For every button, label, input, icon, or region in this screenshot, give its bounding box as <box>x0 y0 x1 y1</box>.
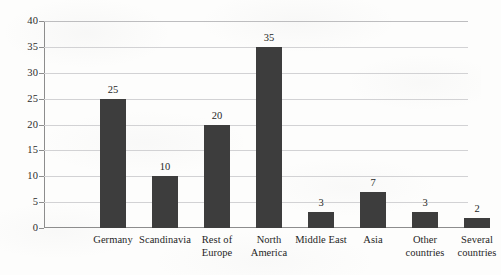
y-axis-tick-mark <box>39 99 44 100</box>
y-axis-tick-label: 30 <box>4 68 38 79</box>
bar <box>152 176 178 228</box>
bar-value-label: 3 <box>301 198 341 209</box>
bar-value-label: 3 <box>405 198 445 209</box>
x-axis-category-label: Severalcountries <box>446 234 501 259</box>
y-axis-tick-mark <box>39 73 44 74</box>
y-axis-tick-mark <box>39 150 44 151</box>
y-axis-tick-label: 5 <box>4 197 38 208</box>
bar <box>308 212 334 228</box>
bar-value-label: 20 <box>197 111 237 122</box>
y-axis-tick-label: 25 <box>4 94 38 105</box>
bar <box>360 192 386 228</box>
bar-value-label: 2 <box>457 204 497 215</box>
y-axis-tick-label: 20 <box>4 120 38 131</box>
y-axis-tick-label: 15 <box>4 145 38 156</box>
y-axis-tick-label: 35 <box>4 42 38 53</box>
y-axis-tick-mark <box>39 125 44 126</box>
y-axis-tick-mark <box>39 47 44 48</box>
y-axis-tick-mark <box>39 228 44 229</box>
category-label-line: Several <box>446 234 501 247</box>
bar <box>412 212 438 228</box>
y-axis-tick-label: 0 <box>4 223 38 234</box>
category-label-line: America <box>238 247 300 260</box>
plot-area: 0510152025303540 251020353732 <box>44 21 468 228</box>
bar-value-label: 10 <box>145 162 185 173</box>
y-axis-tick-mark <box>39 176 44 177</box>
bar-value-label: 35 <box>249 33 289 44</box>
y-axis-tick-label: 10 <box>4 171 38 182</box>
y-axis-tick-mark <box>39 202 44 203</box>
y-axis-tick-label: 40 <box>4 16 38 27</box>
y-axis-tick-mark <box>39 21 44 22</box>
bar-value-label: 25 <box>93 85 133 96</box>
category-label-line: countries <box>446 247 501 260</box>
bar <box>256 47 282 228</box>
bar <box>100 99 126 228</box>
bar <box>204 125 230 229</box>
bar-value-label: 7 <box>353 178 393 189</box>
gridline <box>44 21 468 22</box>
bar <box>464 218 490 228</box>
